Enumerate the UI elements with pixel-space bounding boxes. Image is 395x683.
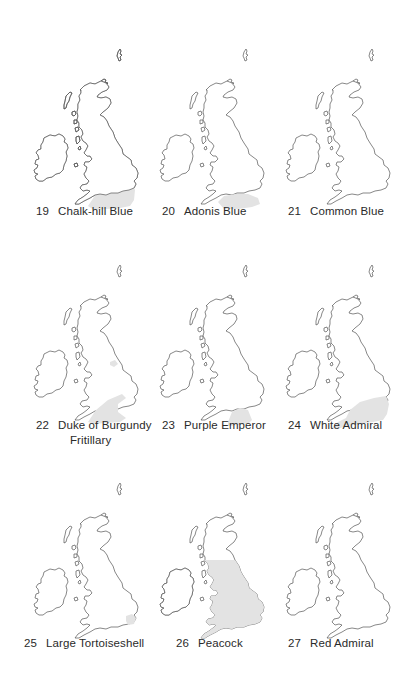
distribution-map-large-tortoiseshell — [14, 468, 142, 648]
map-cell-24: 24White Admiral — [266, 250, 394, 450]
species-number: 27 — [288, 636, 310, 651]
species-number: 24 — [288, 418, 310, 433]
map-cell-27: 27Red Admiral — [266, 468, 394, 668]
map-caption: 21Common Blue — [288, 204, 384, 219]
species-name: White Admiral — [310, 418, 382, 433]
species-number: 21 — [288, 204, 310, 219]
species-name: Adonis Blue — [184, 204, 246, 219]
distribution-map-common-blue — [266, 34, 394, 214]
map-caption: 25Large Tortoiseshell — [24, 636, 142, 651]
species-name: Peacock — [198, 636, 243, 651]
map-caption: 27Red Admiral — [288, 636, 374, 651]
distribution-map-red-admiral — [266, 468, 394, 648]
species-number: 25 — [24, 636, 46, 651]
map-cell-25: 25Large Tortoiseshell — [14, 468, 142, 668]
species-name: Large Tortoiseshell — [46, 636, 144, 651]
map-cell-19: 19Chalk-hill Blue — [14, 34, 142, 234]
species-number: 20 — [162, 204, 184, 219]
species-name: Red Admiral — [310, 636, 374, 651]
map-cell-22: 22Duke of BurgundyFritillary — [14, 250, 142, 450]
map-cell-23: 23Purple Emperor — [140, 250, 268, 450]
species-name: Purple Emperor — [184, 418, 266, 433]
distribution-map-peacock — [140, 468, 268, 648]
species-number: 22 — [36, 418, 58, 433]
map-cell-26: 26Peacock — [140, 468, 268, 668]
map-caption: 22Duke of BurgundyFritillary — [36, 418, 142, 448]
map-cell-21: 21Common Blue — [266, 34, 394, 234]
species-name: Duke of BurgundyFritillary — [58, 418, 152, 448]
species-name: Chalk-hill Blue — [58, 204, 133, 219]
species-number: 23 — [162, 418, 184, 433]
distribution-map-adonis-blue — [140, 34, 268, 214]
species-number: 19 — [36, 204, 58, 219]
distribution-map-white-admiral — [266, 250, 394, 430]
map-caption: 23Purple Emperor — [162, 418, 266, 433]
map-caption: 19Chalk-hill Blue — [36, 204, 133, 219]
species-name: Common Blue — [310, 204, 384, 219]
map-cell-20: 20Adonis Blue — [140, 34, 268, 234]
distribution-shading — [140, 560, 268, 648]
map-caption: 20Adonis Blue — [162, 204, 246, 219]
species-number: 26 — [176, 636, 198, 651]
distribution-map-duke-of-burgundy — [14, 250, 142, 430]
map-caption: 24White Admiral — [288, 418, 382, 433]
distribution-map-purple-emperor — [140, 250, 268, 430]
map-caption: 26Peacock — [176, 636, 243, 651]
distribution-map-chalk-hill-blue — [14, 34, 142, 214]
